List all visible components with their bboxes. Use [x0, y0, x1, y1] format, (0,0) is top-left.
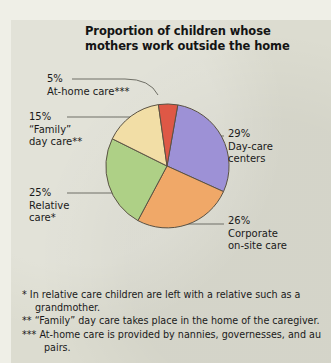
slice-label-relative-care: 25% Relative care*: [29, 187, 69, 225]
slice-label-family-day-care: 15% “Family” day care**: [29, 111, 82, 149]
footnote-relative-care: * In relative care children are left wit…: [22, 288, 322, 314]
slice-label-day-care-centers: 29% Day-care centers: [228, 128, 273, 166]
footnote-family-day-care: ** “Family” day care takes place in the …: [22, 314, 322, 327]
footnotes: * In relative care children are left wit…: [22, 288, 322, 354]
slice-label-at-home-care: 5% At-home care***: [47, 73, 129, 98]
slice-label-corporate-on-site: 26% Corporate on-site care: [228, 215, 287, 253]
pie-slices: [106, 104, 229, 228]
footnote-at-home-care: *** At-home care is provided by nannies,…: [22, 328, 322, 354]
